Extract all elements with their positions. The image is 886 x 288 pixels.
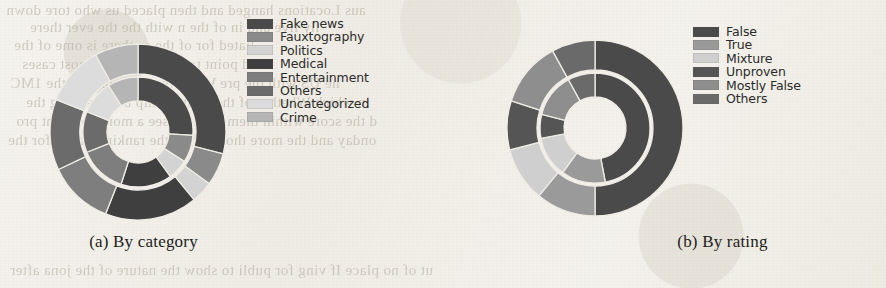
legend-item: Others bbox=[693, 92, 801, 105]
donut-ring-outer bbox=[50, 44, 226, 220]
legend-item-label: Mostly False bbox=[726, 79, 801, 92]
donut-chart-by-category bbox=[48, 42, 228, 222]
legend-item: Mostly False bbox=[693, 79, 801, 92]
legend-item: Entertainment bbox=[247, 71, 369, 84]
legend-item: Politics bbox=[247, 44, 369, 57]
legend-item-label: Crime bbox=[280, 111, 317, 124]
legend-swatch-icon bbox=[693, 40, 719, 50]
legend-by-rating: FalseTrueMixtureUnprovenMostly FalseOthe… bbox=[693, 25, 801, 105]
legend-item-label: Mixture bbox=[726, 52, 772, 65]
legend-item: Uncategorized bbox=[247, 97, 369, 110]
legend-by-category: Fake newsFauxtographyPoliticsMedicalEnte… bbox=[247, 17, 369, 124]
legend-swatch-icon bbox=[247, 59, 273, 69]
legend-item-label: Uncategorized bbox=[280, 97, 369, 110]
legend-item: False bbox=[693, 25, 801, 38]
legend-swatch-icon bbox=[693, 27, 719, 37]
donut-chart-by-rating bbox=[505, 38, 685, 218]
donut-ring-outer bbox=[507, 40, 683, 216]
legend-item-label: Unproven bbox=[726, 65, 786, 78]
donut-chart-by-rating-svg bbox=[505, 38, 685, 218]
figure-two-donut-charts: Fake newsFauxtographyPoliticsMedicalEnte… bbox=[0, 0, 886, 288]
legend-item-label: Others bbox=[726, 92, 767, 105]
caption-by-category: (a) By category bbox=[0, 232, 365, 252]
legend-item: Fake news bbox=[247, 17, 369, 30]
legend-item-label: Fake news bbox=[280, 17, 344, 30]
legend-swatch-icon bbox=[247, 99, 273, 109]
legend-swatch-icon bbox=[247, 112, 273, 122]
legend-item-label: Entertainment bbox=[280, 71, 369, 84]
legend-swatch-icon bbox=[247, 45, 273, 55]
legend-item-label: True bbox=[726, 38, 752, 51]
legend-swatch-icon bbox=[247, 32, 273, 42]
legend-swatch-icon bbox=[693, 67, 719, 77]
legend-swatch-icon bbox=[693, 94, 719, 104]
donut-ring-inner bbox=[540, 73, 650, 183]
legend-item-label: Fauxtography bbox=[280, 30, 364, 43]
legend-item: Fauxtography bbox=[247, 30, 369, 43]
donut-slice bbox=[50, 100, 86, 170]
legend-swatch-icon bbox=[247, 86, 273, 96]
donut-chart-by-category-svg bbox=[48, 42, 228, 222]
donut-ring-inner bbox=[83, 77, 193, 187]
legend-item: Others bbox=[247, 84, 369, 97]
legend-item: Unproven bbox=[693, 65, 801, 78]
chart-panel-by-rating: FalseTrueMixtureUnprovenMostly FalseOthe… bbox=[443, 0, 886, 288]
legend-swatch-icon bbox=[693, 80, 719, 90]
legend-swatch-icon bbox=[247, 72, 273, 82]
legend-item-label: Politics bbox=[280, 44, 323, 57]
legend-item-label: False bbox=[726, 25, 757, 38]
legend-swatch-icon bbox=[693, 53, 719, 63]
legend-item-label: Medical bbox=[280, 57, 327, 70]
chart-panel-by-category: Fake newsFauxtographyPoliticsMedicalEnte… bbox=[0, 0, 443, 288]
legend-item-label: Others bbox=[280, 84, 321, 97]
legend-swatch-icon bbox=[247, 19, 273, 29]
legend-item: Crime bbox=[247, 111, 369, 124]
legend-item: True bbox=[693, 38, 801, 51]
legend-item: Mixture bbox=[693, 52, 801, 65]
legend-item: Medical bbox=[247, 57, 369, 70]
caption-by-rating: (b) By rating bbox=[501, 232, 886, 252]
